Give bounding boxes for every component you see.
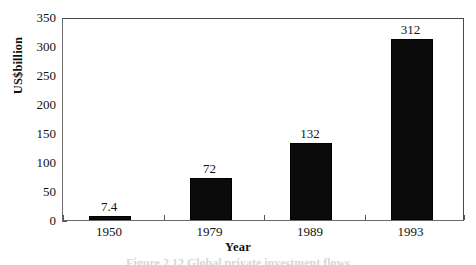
bar-value-label: 72 [170, 161, 250, 177]
bar-chart-figure: US$billion 050100150200250300350 7.47213… [0, 0, 476, 265]
y-axis-tick-label: 250 [16, 67, 56, 84]
x-axis-tick-mark [164, 215, 165, 220]
bar-value-label: 312 [371, 22, 451, 38]
y-axis-tick-label: 350 [16, 9, 56, 26]
y-axis-tick-label: 50 [16, 183, 56, 200]
bar-value-label: 132 [270, 126, 350, 142]
bar [190, 178, 232, 220]
figure-caption: Figure 2.12 Global private investment fl… [0, 256, 476, 265]
x-axis-tick-label: 1993 [371, 224, 451, 240]
bar-value-label: 7.4 [69, 199, 149, 215]
x-axis-tick-label: 1950 [69, 224, 149, 240]
x-axis-tick-mark [464, 215, 465, 220]
y-axis-tick-label: 0 [16, 212, 56, 229]
y-axis-tick-label: 100 [16, 154, 56, 171]
x-axis-tick-label: 1989 [270, 224, 350, 240]
y-axis-tick-label: 150 [16, 125, 56, 142]
x-axis-title: Year [0, 240, 476, 255]
x-axis-tick-label: 1979 [170, 224, 250, 240]
y-axis-tick-label: 200 [16, 96, 56, 113]
y-axis-tick-mark [62, 221, 67, 222]
x-axis-tick-mark [63, 215, 64, 220]
x-axis-tick-mark [365, 215, 366, 220]
y-axis-tick-label: 300 [16, 38, 56, 55]
plot-area [62, 18, 464, 221]
bar [391, 39, 433, 220]
bar [89, 216, 131, 220]
x-axis-tick-mark [264, 215, 265, 220]
bar [290, 143, 332, 220]
